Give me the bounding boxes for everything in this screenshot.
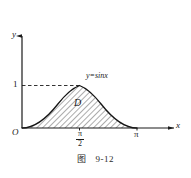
half-pi-denominator: 2 [72, 140, 88, 148]
x-tick-label-pi: π [134, 130, 139, 139]
figure-caption: 图9-12 [0, 152, 191, 165]
y-axis-label: y [12, 30, 16, 39]
x-tick-label-half-pi: π 2 [72, 130, 88, 148]
curve-equation-label: y=sinx [86, 72, 108, 80]
origin-label: O [12, 128, 19, 137]
y-tick-label-one: 1 [13, 80, 18, 89]
caption-number: 9-12 [96, 154, 115, 164]
half-pi-numerator: π [72, 130, 88, 138]
region-label-d: D [74, 98, 81, 108]
x-axis-label: x [176, 121, 180, 130]
caption-word: 图 [77, 154, 87, 164]
figure-container: y x O 1 π π 2 y=sinx D 图9-12 [0, 0, 191, 178]
